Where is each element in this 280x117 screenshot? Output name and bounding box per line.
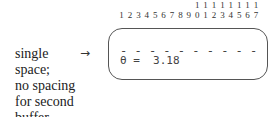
column-tens-digit: 1 bbox=[227, 1, 235, 10]
column-tens-digit: 1 bbox=[235, 1, 243, 10]
column-tens-digit: 1 bbox=[193, 1, 201, 10]
column-tens-digit: 1 bbox=[201, 1, 209, 10]
column-ones-digit: 5 bbox=[151, 11, 159, 20]
column-ones-digit: 7 bbox=[252, 11, 260, 20]
column-ones-digit: 0 bbox=[193, 11, 201, 20]
annotation-line: for second bbox=[15, 94, 75, 110]
annotation-text: single space; no spacing for second buff… bbox=[15, 46, 75, 117]
display-value-line: θ = 3.18 bbox=[120, 54, 180, 67]
right-arrow-icon: → bbox=[80, 46, 90, 60]
column-tens-digit: 1 bbox=[218, 1, 226, 10]
column-ones-digit: 1 bbox=[117, 11, 125, 20]
column-ones-digit: 9 bbox=[185, 11, 193, 20]
column-ones-digit: 8 bbox=[176, 11, 184, 20]
column-tens-digit: 1 bbox=[210, 1, 218, 10]
column-tens-digit: 1 bbox=[252, 1, 260, 10]
column-ones-digit: 5 bbox=[235, 11, 243, 20]
column-ones-digit: 7 bbox=[168, 11, 176, 20]
column-ones-digit: 6 bbox=[159, 11, 167, 20]
column-ones-digit: 3 bbox=[134, 11, 142, 20]
annotation-line: single bbox=[15, 46, 75, 62]
annotation-line: no spacing bbox=[15, 78, 75, 94]
annotation-line: buffer bbox=[15, 110, 75, 117]
column-ones-digit: 6 bbox=[243, 11, 251, 20]
column-ones-digit: 4 bbox=[227, 11, 235, 20]
annotation-line: space; bbox=[15, 62, 75, 78]
column-ones-digit: 4 bbox=[143, 11, 151, 20]
column-ones-digit: 2 bbox=[210, 11, 218, 20]
column-ones-digit: 1 bbox=[201, 11, 209, 20]
column-ones-digit: 3 bbox=[218, 11, 226, 20]
column-ones-digit: 2 bbox=[126, 11, 134, 20]
column-tens-digit: 1 bbox=[243, 1, 251, 10]
